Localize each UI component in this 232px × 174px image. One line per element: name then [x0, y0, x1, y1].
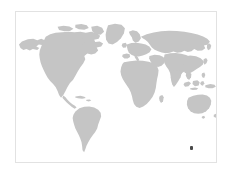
- landmass-australia: [187, 94, 211, 113]
- landmass-russia-siberia: [141, 31, 210, 54]
- landmass-north-america: [39, 32, 103, 98]
- landmass-java: [190, 87, 198, 89]
- landmass-india: [171, 70, 182, 87]
- map-frame: [15, 11, 217, 163]
- world-map-figure: [0, 0, 232, 174]
- location-marker-dot[interactable]: [190, 146, 193, 150]
- landmass-canadian-arctic-2: [75, 24, 89, 30]
- landmass-philippines: [202, 72, 206, 78]
- landmass-japan: [203, 58, 207, 65]
- landmass-new-guinea: [205, 84, 215, 88]
- landmass-new-zealand-south: [214, 114, 216, 118]
- landmass-kamchatka: [207, 43, 211, 50]
- landmass-tasmania: [202, 116, 205, 119]
- world-map-canvas: [16, 12, 216, 162]
- landmass-sulawesi: [200, 81, 204, 86]
- landmass-greenland: [106, 24, 125, 45]
- landmass-central-america: [62, 95, 76, 108]
- landmass-scandinavia: [129, 30, 141, 43]
- landmass-indochina: [186, 72, 192, 80]
- landmass-british-isles: [122, 43, 127, 48]
- landmass-south-america: [73, 107, 102, 153]
- landmass-canadian-arctic-1: [58, 26, 74, 32]
- landmass-china-east-asia: [183, 55, 203, 74]
- landmass-sumatra: [184, 82, 192, 87]
- landmass-madagascar: [159, 95, 164, 103]
- landmass-africa: [120, 61, 158, 108]
- landmass-iberia: [122, 53, 130, 58]
- landmass-caribbean-cuba: [75, 96, 86, 99]
- landmass-caribbean-hispaniola: [86, 99, 91, 101]
- landmass-europe-mainland: [127, 43, 152, 57]
- landmass-borneo: [192, 80, 199, 86]
